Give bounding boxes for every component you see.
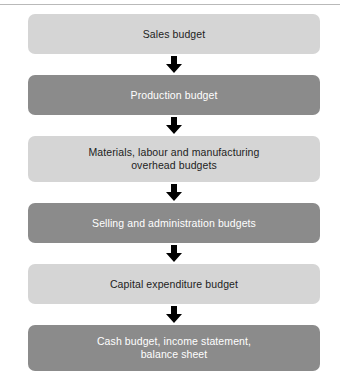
flow-connector-1	[165, 54, 183, 75]
down-arrow-icon	[165, 56, 183, 74]
flow-connector-4	[165, 243, 183, 264]
down-arrow-icon	[165, 117, 183, 135]
flowchart-node-stack: Sales budget Production budget Materials…	[28, 14, 320, 371]
flow-node-label: Materials, labour and manufacturing over…	[88, 146, 259, 172]
down-arrow-icon	[165, 306, 183, 324]
flow-node-label: Cash budget, income statement, balance s…	[97, 335, 251, 361]
flow-node-selling-administration-budgets[interactable]: Selling and administration budgets	[28, 203, 320, 243]
flow-node-cash-budget-income-statement-balance-sheet[interactable]: Cash budget, income statement, balance s…	[28, 325, 320, 371]
flow-connector-2	[165, 115, 183, 136]
flow-connector-5	[165, 304, 183, 325]
flow-node-sales-budget[interactable]: Sales budget	[28, 14, 320, 54]
flow-node-label: Sales budget	[143, 28, 206, 41]
top-divider-rule	[0, 4, 340, 5]
flow-node-label: Capital expenditure budget	[110, 278, 238, 291]
flow-node-label: Selling and administration budgets	[92, 217, 256, 230]
down-arrow-icon	[165, 184, 183, 202]
flow-node-materials-labour-overhead-budgets[interactable]: Materials, labour and manufacturing over…	[28, 136, 320, 182]
flow-node-capital-expenditure-budget[interactable]: Capital expenditure budget	[28, 264, 320, 304]
flow-node-production-budget[interactable]: Production budget	[28, 75, 320, 115]
down-arrow-icon	[165, 245, 183, 263]
flow-connector-3	[165, 182, 183, 203]
flow-node-label: Production budget	[131, 89, 218, 102]
